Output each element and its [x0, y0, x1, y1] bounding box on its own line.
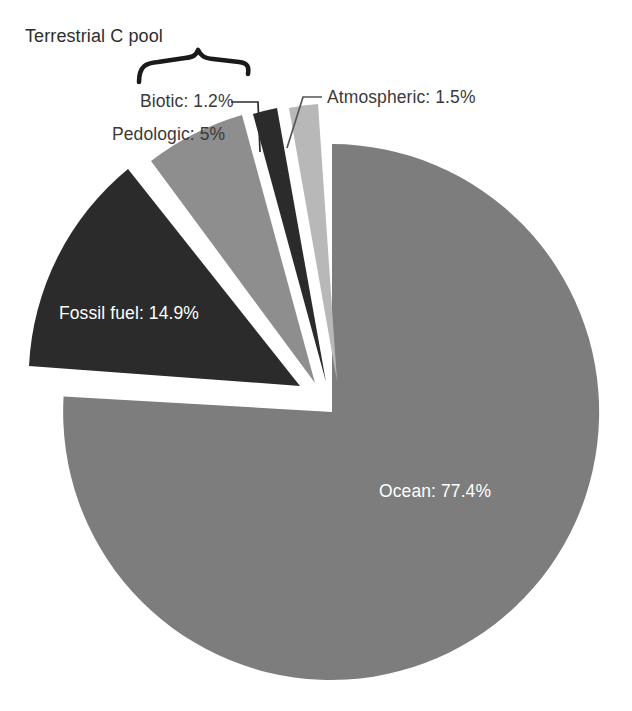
- terrestrial-c-pool-label: Terrestrial C pool: [25, 26, 163, 47]
- pie-slices: [29, 104, 599, 680]
- biotic-label: Biotic: 1.2%: [140, 91, 234, 112]
- pie-chart-canvas: [0, 0, 632, 711]
- ocean-label: Ocean: 77.4%: [379, 481, 491, 502]
- atmospheric-label: Atmospheric: 1.5%: [327, 87, 476, 108]
- caption-strip: [0, 697, 632, 711]
- pie-chart-figure: Terrestrial C pool Biotic: 1.2% Pedologi…: [0, 0, 632, 711]
- pedologic-label: Pedologic: 5%: [112, 124, 225, 145]
- terrestrial-c-pool-brace: [139, 50, 248, 82]
- fossil-fuel-label: Fossil fuel: 14.9%: [59, 303, 199, 324]
